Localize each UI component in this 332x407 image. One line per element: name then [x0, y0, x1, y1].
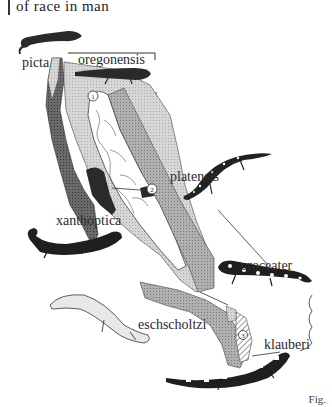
label-platensis: platensis [170, 170, 219, 184]
svg-text:3: 3 [241, 332, 244, 339]
salamander-picta [20, 31, 83, 54]
marker-3: 3 [239, 331, 248, 340]
label-oregonensis: oregonensis [78, 53, 145, 67]
svg-text:1: 1 [91, 93, 95, 101]
label-eschscholtzi: eschscholtzi [138, 318, 206, 332]
marker-1: 1 [88, 91, 98, 101]
label-picta: picta [22, 56, 49, 70]
label-xanthoptica: xanthoptica [56, 214, 121, 228]
label-klauberi: klauberi [264, 338, 310, 352]
figure-mark: Fig. [309, 393, 326, 405]
svg-text:2: 2 [150, 186, 154, 194]
marker-2: 2 [147, 184, 157, 194]
label-croceater: croceater [241, 259, 292, 273]
salamander-xanthoptica [28, 228, 122, 258]
salamander-eschscholtzi [50, 295, 149, 343]
